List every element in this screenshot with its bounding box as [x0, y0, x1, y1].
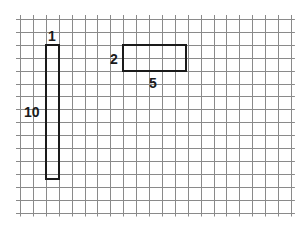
tall-rect-width-label: 1	[48, 29, 56, 43]
tall-rect-height-label: 10	[24, 105, 40, 119]
grid-svg	[0, 0, 305, 234]
wide-rect-height-label: 2	[110, 52, 118, 66]
tall-rectangle	[46, 45, 59, 179]
wide-rect-width-label: 5	[149, 76, 157, 90]
grid-diagram: 1 10 2 5	[0, 0, 305, 234]
